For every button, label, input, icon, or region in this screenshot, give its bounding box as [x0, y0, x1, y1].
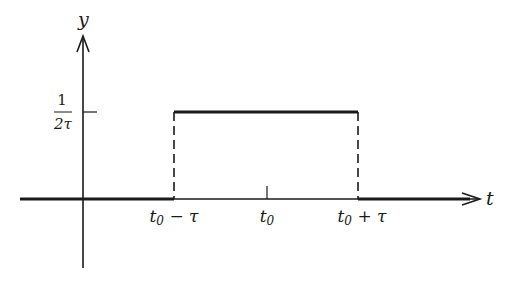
y-axis-label: y	[77, 8, 89, 30]
y-level-denominator: 2τ	[53, 115, 73, 133]
tick-label-t0-minus-tau: t0 − τ	[150, 206, 200, 228]
y-level-numerator: 1	[57, 91, 67, 109]
tick-label-t0-plus-tau: t0 + τ	[338, 206, 388, 228]
tick-label-t0: t0	[260, 206, 275, 228]
x-axis-label: t	[486, 187, 494, 209]
pulse-diagram: y t 1 2τ t0 − τ t0 t0 + τ	[0, 0, 516, 282]
